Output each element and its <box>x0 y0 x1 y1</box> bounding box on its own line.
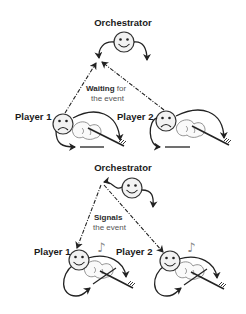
orchestrator-label: Orchestrator <box>94 17 152 28</box>
happy-face-icon <box>69 250 89 270</box>
player-2-label: Player 2 <box>116 246 152 257</box>
happy-face-icon <box>160 251 180 271</box>
player-1-label: Player 1 <box>15 111 52 122</box>
waiting-note-line1: Waiting for <box>86 84 126 93</box>
player-2-waiting: Player 2 <box>117 110 231 147</box>
music-note-icon: ♪ <box>187 240 195 255</box>
orchestrator-right-arrow-icon <box>134 42 147 60</box>
player-2-label: Player 2 <box>117 111 153 122</box>
violin-neck-icon <box>191 272 224 289</box>
violin-icon <box>72 122 101 140</box>
player-1-label: Player 1 <box>34 246 71 257</box>
sad-face-icon <box>156 111 176 131</box>
waiting-note-line2: the event <box>91 94 125 103</box>
violin-icon <box>176 120 205 138</box>
signals-note-line2: the event <box>93 223 127 232</box>
player-1-waiting: Player 1 <box>15 111 126 147</box>
diagram-canvas: Orchestrator Waiting for the event Playe… <box>0 0 246 314</box>
violin-neck-icon <box>100 271 133 288</box>
panel-waiting: Orchestrator Waiting for the event Playe… <box>15 17 231 147</box>
music-note-icon: ♪ <box>97 240 105 255</box>
orchestrator-happy-face-icon <box>122 178 142 198</box>
orchestrator-left-arrow-icon <box>99 42 114 58</box>
panel-signals: Orchestrator Signals the event Player 1 … <box>34 162 226 296</box>
orchestrator-right-arrow-icon <box>142 190 153 207</box>
signals-note-line1: Signals <box>94 213 123 222</box>
orchestrator-label: Orchestrator <box>94 162 152 173</box>
orchestrator-happy-face-icon <box>114 32 134 52</box>
